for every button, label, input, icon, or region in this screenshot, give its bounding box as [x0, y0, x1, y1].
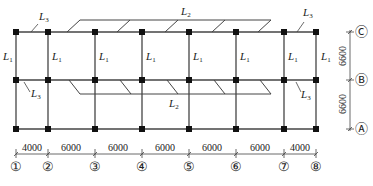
label-l3-bottom-right: L3: [300, 88, 311, 102]
axis-B: Ⓑ: [355, 72, 368, 87]
label-l1-axis5: L1: [192, 50, 203, 64]
axis-4: ④: [136, 159, 148, 174]
svg-text:6600: 6600: [337, 46, 348, 66]
label-l1-axis6: L1: [239, 50, 250, 64]
cantilever-slab-bottom: [69, 80, 271, 94]
beam-grid: [16, 32, 316, 129]
structural-plan-diagram: L3 L3 L3 L3 L2 L2 L1 L1 L1 L1 L1 L1 L1 L…: [0, 0, 373, 186]
svg-text:4000: 4000: [290, 142, 310, 153]
label-l3-top-left: L3: [38, 10, 49, 24]
axis-7: ⑦: [278, 159, 290, 174]
label-l1-axis7: L1: [287, 50, 298, 64]
label-l1-axis8: L1: [320, 50, 331, 64]
label-l2-bottom: L2: [168, 97, 179, 111]
axis-3: ③: [89, 159, 101, 174]
axis-A: Ⓐ: [355, 121, 368, 136]
axis-labels-x: ① ② ③ ④ ⑤ ⑥ ⑦ ⑧: [10, 159, 322, 174]
member-labels: L3 L3 L3 L3 L2 L2 L1 L1 L1 L1 L1 L1 L1 L…: [2, 5, 331, 111]
axis-2: ②: [42, 159, 54, 174]
svg-text:6000: 6000: [61, 142, 81, 153]
axis-C: Ⓒ: [355, 24, 368, 39]
svg-text:6000: 6000: [202, 142, 222, 153]
axis-5: ⑤: [183, 159, 195, 174]
span-dimensions: 4000 6000 6000 6000 6000 6000 4000: [22, 142, 310, 153]
axis-labels-y: Ⓒ Ⓑ Ⓐ: [355, 24, 368, 136]
svg-text:6000: 6000: [250, 142, 270, 153]
label-l1-axis2: L1: [51, 50, 62, 64]
svg-text:6600: 6600: [337, 94, 348, 114]
axis-1: ①: [10, 159, 22, 174]
axis-6: ⑥: [230, 159, 242, 174]
label-l2-top: L2: [180, 5, 191, 19]
axis-8: ⑧: [310, 159, 322, 174]
svg-text:4000: 4000: [22, 142, 42, 153]
label-l1-axis4: L1: [145, 50, 156, 64]
svg-text:6000: 6000: [155, 142, 175, 153]
svg-text:6000: 6000: [108, 142, 128, 153]
label-l3-bottom-left: L3: [30, 87, 41, 101]
label-l3-top-right: L3: [302, 6, 313, 20]
label-l1-axis3: L1: [98, 50, 109, 64]
vertical-dimension-line: [346, 30, 354, 131]
label-l1-axis1: L1: [2, 50, 13, 64]
